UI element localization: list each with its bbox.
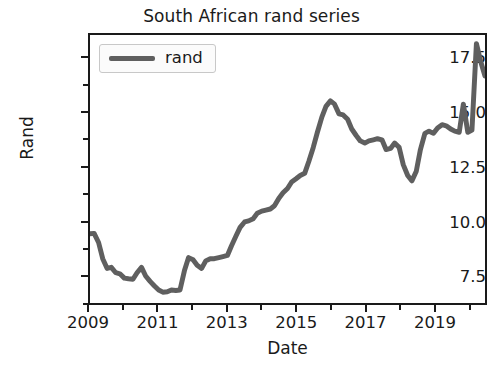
chart-legend[interactable]: rand	[99, 44, 216, 73]
x-tick-mark-minor	[260, 305, 262, 310]
x-tick-mark	[226, 305, 228, 312]
chart-title: South African rand series	[0, 6, 503, 26]
y-tick-mark	[81, 111, 88, 113]
x-tick-mark	[434, 305, 436, 312]
x-tick-mark-minor	[330, 305, 332, 310]
legend-label-rand: rand	[165, 50, 203, 67]
x-tick-mark	[295, 305, 297, 312]
x-tick-mark-minor	[469, 305, 471, 310]
x-tick-mark	[87, 305, 89, 312]
x-tick-label: 2017	[345, 313, 387, 332]
figure-canvas: South African rand series 7.510.012.515.…	[0, 0, 503, 369]
x-tick-label: 2011	[136, 313, 178, 332]
x-tick-mark	[365, 305, 367, 312]
y-tick-mark	[81, 221, 88, 223]
x-tick-mark-minor	[122, 305, 124, 310]
x-tick-label: 2015	[275, 313, 317, 332]
y-tick-mark	[81, 166, 88, 168]
x-axis-label: Date	[88, 338, 487, 358]
y-axis-label: Rand	[17, 93, 37, 183]
y-tick-mark	[81, 275, 88, 277]
x-tick-mark-minor	[399, 305, 401, 310]
x-tick-label: 2013	[206, 313, 248, 332]
plot-area	[88, 33, 487, 305]
legend-swatch-rand	[109, 56, 155, 61]
x-tick-label: 2019	[414, 313, 456, 332]
x-tick-label: 2009	[67, 313, 109, 332]
x-tick-mark-minor	[191, 305, 193, 310]
y-tick-mark	[81, 56, 88, 58]
series-line-rand	[90, 35, 485, 303]
x-tick-mark	[156, 305, 158, 312]
rand-polyline	[90, 44, 485, 293]
